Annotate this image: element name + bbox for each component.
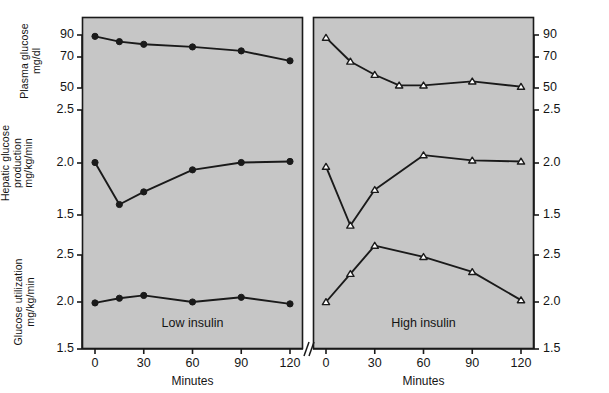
y-tick-label-right-plasma-glucose-50: 50 bbox=[543, 80, 585, 94]
data-point-low-insulin-glucose-utilization-60 bbox=[189, 299, 195, 305]
y-axis-title-hepatic-glucose-production: Hepatic glucoseproductionmg/kg/min bbox=[0, 125, 34, 201]
x-tick-label-high-insulin-120: 120 bbox=[501, 356, 541, 370]
data-point-low-insulin-plasma-glucose-0 bbox=[92, 33, 98, 39]
figure-root: 9090707050502.52.52.02.01.51.52.52.52.02… bbox=[0, 0, 609, 393]
x-tick-label-low-insulin-30: 30 bbox=[124, 356, 164, 370]
data-point-low-insulin-glucose-utilization-0 bbox=[92, 300, 98, 306]
data-point-low-insulin-glucose-utilization-30 bbox=[141, 292, 147, 298]
y-tick-label-left-glucose-utilization-2.5: 2.5 bbox=[32, 247, 74, 261]
data-point-low-insulin-glucose-utilization-120 bbox=[287, 301, 293, 307]
data-point-low-insulin-plasma-glucose-30 bbox=[141, 41, 147, 47]
data-point-low-insulin-plasma-glucose-120 bbox=[287, 58, 293, 64]
y-tick-label-left-glucose-utilization-2.0: 2.0 bbox=[32, 294, 74, 308]
x-tick-label-high-insulin-0: 0 bbox=[306, 356, 346, 370]
y-axis-title-line: Plasma glucose bbox=[19, 23, 31, 99]
data-point-low-insulin-plasma-glucose-15 bbox=[116, 39, 122, 45]
data-point-low-insulin-plasma-glucose-90 bbox=[238, 48, 244, 54]
data-point-low-insulin-glucose-utilization-15 bbox=[116, 295, 122, 301]
x-tick-label-high-insulin-60: 60 bbox=[404, 356, 444, 370]
data-point-low-insulin-hepatic-glucose-production-60 bbox=[189, 167, 195, 173]
data-point-low-insulin-hepatic-glucose-production-90 bbox=[238, 159, 244, 165]
y-tick-label-left-hepatic-glucose-production-1.5: 1.5 bbox=[32, 207, 74, 221]
y-tick-label-right-glucose-utilization-1.5: 1.5 bbox=[543, 341, 585, 355]
y-axis-title-line: Hepatic glucose bbox=[0, 125, 11, 201]
x-axis-title-low-insulin: Minutes bbox=[143, 374, 243, 388]
y-tick-label-left-hepatic-glucose-production-2.0: 2.0 bbox=[32, 155, 74, 169]
y-axis-title-plasma-glucose: Plasma glucosemg/dl bbox=[19, 23, 42, 99]
y-tick-label-right-hepatic-glucose-production-2.0: 2.0 bbox=[543, 155, 585, 169]
data-point-low-insulin-hepatic-glucose-production-0 bbox=[92, 159, 98, 165]
y-tick-label-right-glucose-utilization-2.5: 2.5 bbox=[543, 247, 585, 261]
y-tick-label-left-glucose-utilization-1.5: 1.5 bbox=[32, 341, 74, 355]
x-axis-title-high-insulin: Minutes bbox=[374, 374, 474, 388]
y-axis-title-line: mg/kg/min bbox=[24, 258, 36, 345]
panel-background-high-insulin bbox=[313, 17, 534, 349]
data-point-low-insulin-plasma-glucose-60 bbox=[189, 44, 195, 50]
x-tick-label-low-insulin-120: 120 bbox=[270, 356, 310, 370]
data-point-low-insulin-hepatic-glucose-production-120 bbox=[287, 158, 293, 164]
x-tick-label-low-insulin-0: 0 bbox=[75, 356, 115, 370]
x-tick-label-high-insulin-90: 90 bbox=[452, 356, 492, 370]
data-point-low-insulin-hepatic-glucose-production-15 bbox=[116, 201, 122, 207]
panel-label-low-insulin: Low insulin bbox=[133, 316, 253, 330]
y-tick-label-right-hepatic-glucose-production-2.5: 2.5 bbox=[543, 102, 585, 116]
y-tick-label-right-plasma-glucose-70: 70 bbox=[543, 49, 585, 63]
y-tick-label-right-hepatic-glucose-production-1.5: 1.5 bbox=[543, 207, 585, 221]
y-tick-label-right-plasma-glucose-90: 90 bbox=[543, 27, 585, 41]
axis-break-stroke-1 bbox=[304, 342, 309, 356]
y-axis-title-line: Glucose utilization bbox=[13, 258, 25, 345]
x-tick-label-high-insulin-30: 30 bbox=[355, 356, 395, 370]
data-point-low-insulin-hepatic-glucose-production-30 bbox=[141, 189, 147, 195]
y-axis-title-line: mg/kg/min bbox=[23, 125, 35, 201]
x-tick-label-low-insulin-90: 90 bbox=[221, 356, 261, 370]
x-tick-label-low-insulin-60: 60 bbox=[173, 356, 213, 370]
chart-canvas bbox=[0, 0, 609, 393]
y-axis-title-glucose-utilization: Glucose utilizationmg/kg/min bbox=[13, 258, 36, 345]
panel-label-high-insulin: High insulin bbox=[364, 316, 484, 330]
y-tick-label-left-hepatic-glucose-production-2.5: 2.5 bbox=[32, 102, 74, 116]
y-tick-label-right-glucose-utilization-2.0: 2.0 bbox=[543, 294, 585, 308]
y-axis-title-line: mg/dl bbox=[30, 23, 42, 99]
data-point-low-insulin-glucose-utilization-90 bbox=[238, 294, 244, 300]
